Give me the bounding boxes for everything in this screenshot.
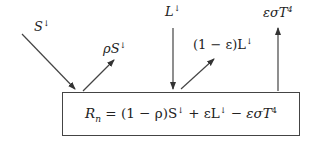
emission-term: εσT (263, 5, 288, 20)
reflected-shortwave-arrow (83, 60, 114, 91)
reflected-shortwave-label: ρS↓ (103, 42, 126, 55)
down-arrow-icon: ↓ (174, 4, 181, 13)
equation: Rn = (1 − ρ)S↓ + εL↓ − εσT4 (85, 105, 277, 124)
reflected-longwave-label: (1 − ε)L↓ (193, 38, 253, 51)
incoming-shortwave-label: S↓ (34, 20, 50, 33)
emitted-longwave-label: εσT4 (263, 6, 293, 19)
equation-term-3: − εσT (226, 105, 271, 121)
l-symbol: L (237, 37, 246, 52)
equation-term-2: + εL (184, 105, 220, 121)
exponent: 4 (272, 105, 277, 114)
rho-symbol: ρ (103, 41, 111, 56)
down-arrow-icon: ↓ (120, 41, 127, 50)
incoming-shortwave-arrow (22, 34, 75, 89)
incoming-longwave-label: L↓ (165, 5, 180, 18)
exponent: 4 (288, 5, 293, 14)
rn-symbol: R (85, 105, 95, 121)
one-minus-epsilon: (1 − ε) (193, 37, 237, 52)
down-arrow-icon: ↓ (246, 37, 253, 46)
reflected-longwave-arrow (181, 59, 214, 89)
net-radiation-equation-box: Rn = (1 − ρ)S↓ + εL↓ − εσT4 (62, 92, 300, 136)
l-symbol: L (165, 4, 174, 19)
down-arrow-icon: ↓ (43, 19, 50, 28)
s-symbol: S (34, 19, 43, 34)
down-arrow-icon: ↓ (177, 105, 184, 114)
s-symbol: S (111, 41, 120, 56)
equation-term-1: = (1 − ρ)S (101, 105, 177, 121)
